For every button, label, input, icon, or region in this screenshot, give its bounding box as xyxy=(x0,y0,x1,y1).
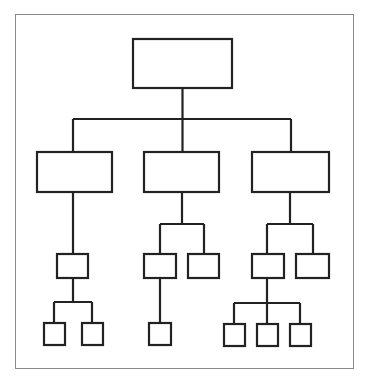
org-chart-diagram xyxy=(0,0,370,381)
org-node-c1b xyxy=(257,324,278,346)
org-node-a1 xyxy=(57,254,88,278)
org-node-root xyxy=(133,39,232,88)
org-node-b1a xyxy=(149,323,171,345)
org-node-c1c xyxy=(290,324,311,346)
connector-lines xyxy=(54,88,313,324)
org-node-c1a xyxy=(224,324,245,346)
org-chart-nodes xyxy=(37,39,329,346)
org-node-b xyxy=(144,152,219,192)
org-node-a1b xyxy=(82,323,103,345)
org-node-c1 xyxy=(252,254,284,278)
org-node-c2 xyxy=(296,254,329,278)
org-node-a xyxy=(37,152,112,192)
org-node-a1a xyxy=(44,323,65,345)
org-node-c xyxy=(252,152,329,192)
org-node-b1 xyxy=(144,254,176,278)
org-node-b2 xyxy=(188,254,219,278)
